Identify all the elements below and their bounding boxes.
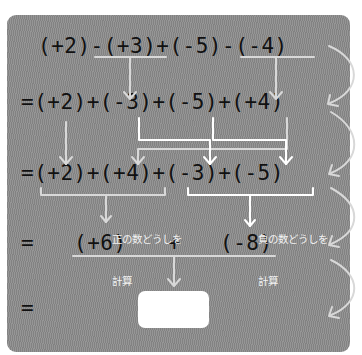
equation-line-1: (+2)-(+3)+(-5)-(-4): [38, 34, 288, 58]
equation-line-4-equals: =: [21, 231, 34, 255]
answer-input-box[interactable]: [138, 291, 209, 328]
negative-label-line-2: 計算: [258, 274, 328, 288]
negative-label-line-1: 負の数どうしを: [258, 232, 328, 246]
equation-line-2: =(+2)+(-3)+(-5)+(+4): [21, 90, 284, 114]
positive-label-line-2: 計算: [112, 274, 182, 288]
positive-numbers-label: 正の数どうしを 計算: [112, 204, 182, 302]
positive-label-line-1: 正の数どうしを: [112, 232, 182, 246]
negative-numbers-label: 負の数どうしを 計算: [258, 204, 328, 302]
equation-line-3: =(+2)+(+4)+(-3)+(-5): [21, 161, 284, 185]
equation-line-5-equals: =: [21, 296, 34, 320]
